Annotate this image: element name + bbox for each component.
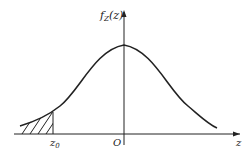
density-diagram: fZ(z) z O z0 bbox=[0, 0, 250, 154]
y-axis-label: fZ(z) bbox=[99, 9, 123, 23]
origin-label: O bbox=[113, 137, 121, 148]
z0-label: z0 bbox=[49, 137, 60, 150]
x-axis-arrow-icon bbox=[233, 132, 240, 137]
density-curve bbox=[20, 45, 217, 128]
shaded-tail-region bbox=[10, 110, 70, 140]
x-axis-label: z bbox=[235, 137, 242, 148]
